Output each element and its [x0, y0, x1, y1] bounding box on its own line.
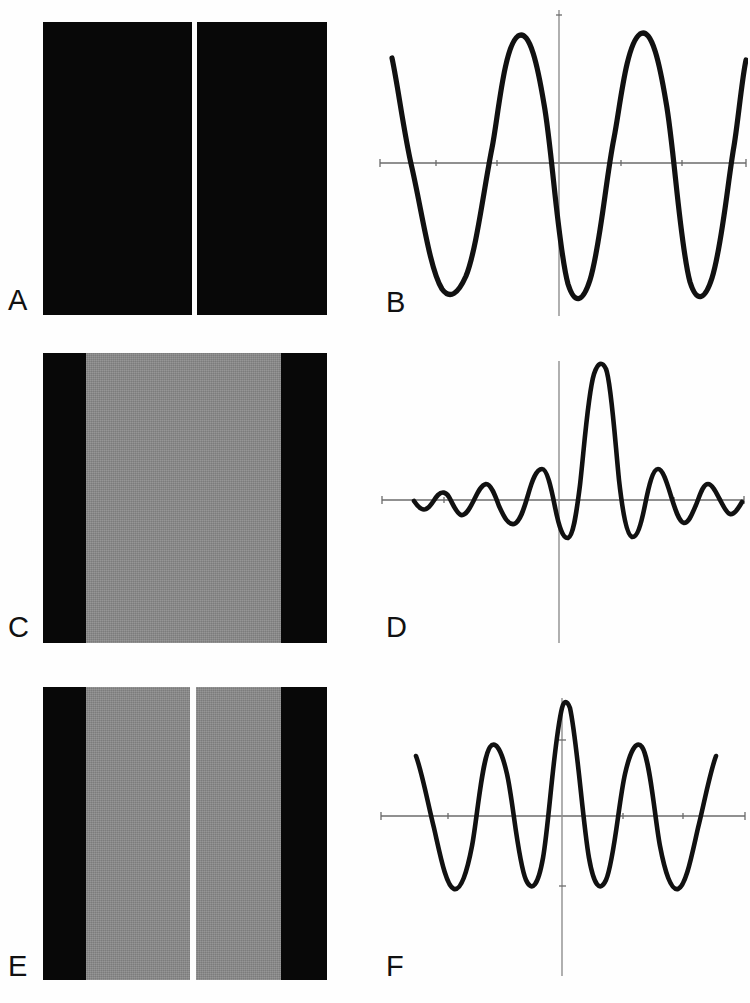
panel-c-aperture-image: [43, 353, 327, 643]
panel-b-label: B: [386, 288, 406, 317]
panel-a-aperture-image: [43, 22, 327, 315]
panel-e-gray-band-right: [196, 687, 281, 980]
panel-d-plot: [378, 345, 748, 645]
panel-e-left-black-bar: [43, 687, 86, 980]
panel-b-svg: [378, 8, 748, 318]
panel-c-right-black-bar: [281, 353, 327, 643]
panel-d-label: D: [386, 613, 407, 642]
panel-b-axis-ticks: [380, 15, 746, 167]
panel-c-gray-band: [86, 353, 281, 643]
panel-a-slit: [192, 22, 197, 315]
panel-f-modulated-cosine-curve: [416, 702, 716, 889]
panel-b-cosine-curve: [392, 33, 746, 299]
panel-c-label: C: [8, 613, 29, 642]
panel-d-svg: [378, 345, 748, 645]
panel-f-label: F: [386, 952, 404, 981]
panel-e-label: E: [8, 952, 28, 981]
panel-f-plot: [378, 676, 748, 986]
figure-root: A B C: [0, 0, 750, 1003]
panel-a-label: A: [8, 286, 28, 315]
panel-e-right-black-bar: [281, 687, 327, 980]
panel-d-sinc-curve: [414, 364, 742, 538]
panel-e-gray-band-left: [86, 687, 190, 980]
panel-f-svg: [378, 676, 748, 986]
panel-c-left-black-bar: [43, 353, 86, 643]
panel-e-aperture-image: [43, 687, 327, 980]
panel-b-plot: [378, 8, 748, 318]
